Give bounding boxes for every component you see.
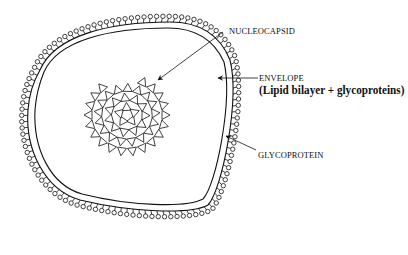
nucleocapsid-pointer [158,32,223,80]
glycoprotein-label: GLYCOPROTEIN [258,150,324,160]
envelope-detail-label: (Lipid bilayer + glycoproteins) [259,82,404,98]
envelope-inner-membrane [35,28,227,205]
nucleocapsid-label: NUCLEOCAPSID [229,26,295,36]
envelope-outer-membrane [28,22,233,211]
cropped-caption [18,251,148,255]
glycoprotein-spikes [20,14,241,219]
nucleocapsid [84,78,170,156]
enveloped-virus-diagram [0,0,408,255]
